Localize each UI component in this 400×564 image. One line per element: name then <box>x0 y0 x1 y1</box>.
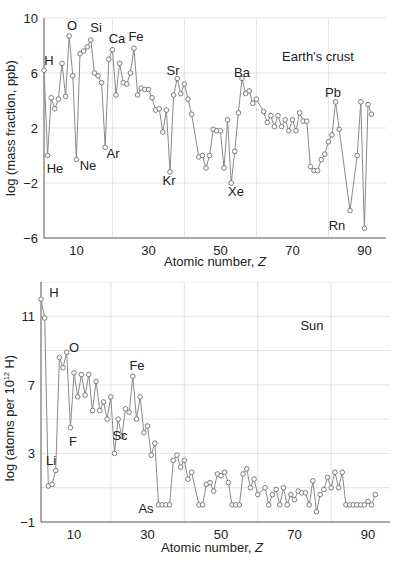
y-tick-label: 3 <box>28 446 35 461</box>
data-point <box>226 480 231 485</box>
element-label-fe: Fe <box>129 358 144 373</box>
element-label-he: He <box>47 161 64 176</box>
element-label-rn: Rn <box>329 218 346 233</box>
y-tick-label: 11 <box>22 309 36 324</box>
data-point <box>123 407 128 412</box>
data-point <box>42 68 47 73</box>
element-label-ba: Ba <box>234 65 251 80</box>
data-point <box>186 477 191 482</box>
data-point <box>330 133 335 138</box>
data-point <box>247 89 252 94</box>
element-label-ca: Ca <box>109 31 126 46</box>
data-point <box>204 166 209 171</box>
data-point <box>63 94 68 99</box>
data-point <box>74 157 79 162</box>
data-point <box>348 208 353 213</box>
data-point <box>208 480 213 485</box>
data-point <box>132 46 137 51</box>
data-point <box>329 485 334 490</box>
data-point <box>97 408 102 413</box>
element-label-f: F <box>69 434 77 449</box>
data-point <box>161 130 166 135</box>
data-point <box>336 485 341 490</box>
data-point <box>366 499 371 504</box>
data-point <box>311 479 316 484</box>
y-tick-label: −1 <box>20 515 35 530</box>
data-point <box>109 395 114 400</box>
data-point <box>200 153 205 158</box>
data-point <box>369 112 374 117</box>
data-point <box>263 485 268 490</box>
data-point <box>150 95 155 100</box>
data-point <box>179 91 184 96</box>
data-point <box>146 87 151 92</box>
data-point <box>281 485 286 490</box>
data-point <box>225 117 230 122</box>
data-point <box>318 492 323 497</box>
data-point <box>319 157 324 162</box>
data-point <box>138 395 143 400</box>
data-point <box>276 113 281 118</box>
element-label-o: O <box>69 340 79 355</box>
data-point <box>266 503 271 508</box>
data-point <box>50 482 55 487</box>
data-point <box>255 492 260 497</box>
data-point <box>125 82 130 87</box>
y-tick-label: −2 <box>23 176 38 191</box>
data-point <box>167 503 172 508</box>
data-point <box>285 503 290 508</box>
data-point <box>200 503 205 508</box>
data-point <box>287 128 292 133</box>
data-point <box>322 487 327 492</box>
data-point <box>362 226 367 231</box>
data-point <box>101 400 106 405</box>
data-point <box>251 101 256 106</box>
y-tick-label: 10 <box>24 11 38 26</box>
data-point <box>323 152 328 157</box>
data-point <box>114 93 119 98</box>
data-point <box>67 34 72 39</box>
data-point <box>60 61 65 66</box>
x-tick-label: 90 <box>361 527 375 542</box>
data-point <box>333 100 338 105</box>
data-point <box>57 355 62 360</box>
data-point <box>85 45 90 50</box>
data-point <box>261 109 266 114</box>
data-point <box>75 395 80 400</box>
data-point <box>94 379 99 384</box>
data-point <box>297 111 302 116</box>
data-point <box>270 492 275 497</box>
data-point <box>333 470 338 475</box>
data-point <box>272 124 277 129</box>
earth-crust-chart: 1030507090−6−22610 HHeONeSiArCaFeSrKrBaX… <box>0 0 400 282</box>
data-point <box>189 470 194 475</box>
data-point <box>145 424 150 429</box>
data-point <box>96 73 101 78</box>
data-point <box>369 503 374 508</box>
data-point <box>171 93 176 98</box>
data-point <box>149 453 154 458</box>
element-label-kr: Kr <box>163 173 177 188</box>
data-point <box>178 465 183 470</box>
data-point <box>117 61 122 66</box>
data-point <box>274 487 279 492</box>
data-point <box>283 117 288 122</box>
data-point <box>110 47 115 52</box>
data-point <box>81 49 86 54</box>
element-label-o: O <box>67 18 77 33</box>
data-point <box>303 491 308 496</box>
data-point <box>277 503 282 508</box>
data-point <box>142 431 147 436</box>
data-point <box>265 120 270 125</box>
x-axis-label: Atomic number, Z <box>161 540 264 555</box>
y-tick-label: 6 <box>31 66 38 81</box>
x-tick-label: 70 <box>285 243 299 258</box>
data-point <box>254 97 259 102</box>
data-point <box>189 112 194 117</box>
element-label-h: H <box>44 53 53 68</box>
x-axis-label: Atomic number, Z <box>164 254 267 269</box>
data-point <box>248 485 253 490</box>
element-label-sr: Sr <box>167 63 181 78</box>
element-label-sc: Sc <box>112 428 128 443</box>
data-point <box>307 503 312 508</box>
